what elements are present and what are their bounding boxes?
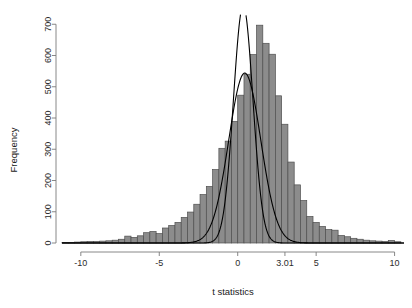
histogram-bar <box>282 124 288 243</box>
histogram-bar <box>288 162 294 243</box>
histogram-bar <box>175 222 181 243</box>
histogram-bar <box>194 204 200 243</box>
y-axis-tick-label: 600 <box>43 48 53 63</box>
histogram-bar <box>125 236 131 243</box>
histogram-bar <box>206 186 212 243</box>
histogram-bar <box>319 226 325 243</box>
y-axis-tick-label: 100 <box>43 204 53 219</box>
histogram-bar <box>231 121 237 243</box>
histogram-bar <box>156 234 162 243</box>
histogram-bar <box>188 212 194 243</box>
histogram-bar <box>275 96 281 243</box>
histogram-bar <box>137 236 143 243</box>
histogram-bar <box>250 55 256 243</box>
chart-background <box>0 0 412 308</box>
histogram-bar <box>269 54 275 243</box>
x-axis-title: t statistics <box>212 286 254 297</box>
histogram-bar <box>169 226 175 244</box>
x-axis-tick-label: -5 <box>155 258 163 268</box>
histogram-bar <box>263 43 269 243</box>
x-axis-tick-label: -10 <box>74 258 87 268</box>
histogram-bar <box>300 201 306 244</box>
y-axis-tick-label: 300 <box>43 142 53 157</box>
histogram-bar <box>213 170 219 243</box>
x-axis-tick-label: 10 <box>390 258 400 268</box>
histogram-bar <box>351 238 357 243</box>
y-axis-title: Frequency <box>8 127 19 172</box>
histogram-bar <box>338 236 344 244</box>
x-axis-tick-label: 3.01 <box>276 258 294 268</box>
histogram-bar <box>357 239 363 243</box>
chart-root: 0100200300400500600700 -10-503.01510 Fre… <box>0 0 412 308</box>
histogram-bar <box>244 74 250 243</box>
histogram-bar <box>344 237 350 243</box>
histogram-bar <box>150 231 156 243</box>
y-axis-tick-label: 0 <box>43 240 53 245</box>
x-axis-tick-label: 0 <box>235 258 240 268</box>
histogram-bar <box>294 185 300 243</box>
histogram-bar <box>131 237 137 243</box>
histogram-bar <box>144 233 150 243</box>
y-axis-tick-label: 500 <box>43 79 53 94</box>
histogram-bar <box>332 230 338 243</box>
histogram-bar <box>200 195 206 243</box>
histogram-bar <box>118 239 124 243</box>
histogram-plot: 0100200300400500600700 -10-503.01510 Fre… <box>0 0 412 308</box>
y-axis-tick-label: 400 <box>43 110 53 125</box>
y-axis-tick-label: 200 <box>43 173 53 188</box>
histogram-bar <box>307 216 313 243</box>
histogram-bar <box>238 95 244 243</box>
histogram-bar <box>181 217 187 243</box>
histogram-bar <box>326 230 332 243</box>
y-axis-tick-label: 700 <box>43 17 53 32</box>
histogram-bar <box>162 228 168 243</box>
x-axis-tick-label: 5 <box>314 258 319 268</box>
histogram-bar <box>313 222 319 243</box>
